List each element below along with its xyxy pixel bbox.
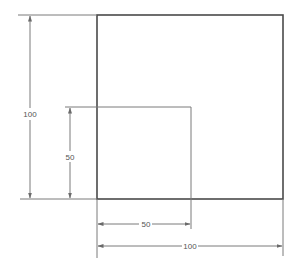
- extension-lines: [18, 15, 283, 258]
- dimension-label: 100: [183, 242, 197, 251]
- dimension-vertical-outer: 100: [23, 16, 37, 198]
- dimension-label: 50: [142, 220, 151, 229]
- dimension-vertical-inner: 50: [66, 108, 75, 198]
- technical-drawing: 100 50 50 100: [0, 0, 298, 266]
- dimension-label: 50: [66, 153, 75, 162]
- dimension-horizontal-inner: 50: [98, 220, 190, 229]
- inner-square: [65, 107, 191, 229]
- dimension-horizontal-outer: 100: [98, 242, 282, 251]
- dimension-label: 100: [23, 110, 37, 119]
